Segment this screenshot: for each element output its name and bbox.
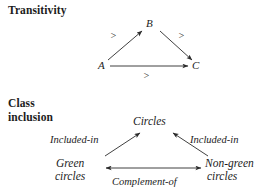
edge-label-b-c: >: [178, 31, 185, 41]
node-nongreen-circles-line2: circles: [207, 170, 237, 183]
edge-b-to-c: [160, 31, 192, 60]
node-circles: Circles: [133, 115, 166, 128]
edge-label-included-in-left: Included-in: [50, 134, 98, 146]
panel-heading-transitivity: Transitivity: [8, 4, 67, 16]
edge-label-a-b: >: [110, 31, 117, 41]
edge-label-complement-of: Complement-of: [112, 176, 177, 188]
edge-label-included-in-right: Included-in: [190, 134, 238, 146]
node-green-circles-line1: Green: [56, 157, 84, 170]
edge-label-a-c: >: [143, 71, 150, 81]
node-b: B: [146, 18, 153, 29]
edge-green-to-circles: [105, 133, 140, 156]
panel-heading-class: Class: [8, 97, 35, 109]
panel-heading-inclusion: inclusion: [8, 111, 53, 123]
figure-canvas: Transitivity A B C > > > Class inclusion…: [0, 0, 276, 195]
node-a: A: [98, 60, 105, 71]
node-nongreen-circles-line1: Non-green: [205, 157, 254, 170]
node-green-circles-line2: circles: [55, 170, 85, 183]
node-c: C: [192, 60, 199, 71]
